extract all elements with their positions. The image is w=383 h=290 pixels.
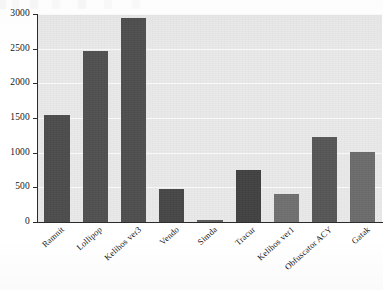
bar	[236, 170, 261, 222]
y-axis-tick-label: 3000	[10, 9, 30, 19]
y-axis-tick-mark	[33, 222, 38, 223]
y-axis-tick-mark	[33, 187, 38, 188]
bars-layer	[38, 14, 382, 222]
x-axis-tick-label: Kelihos ver1	[255, 225, 295, 262]
x-axis-tick-label: Gatak	[350, 225, 372, 246]
bar	[121, 18, 146, 222]
bar	[44, 115, 69, 222]
y-axis-tick-mark	[33, 153, 38, 154]
x-axis-tick-label: Tracur	[234, 225, 257, 247]
bar-chart-figure: 050010001500200025003000 RamnitLollipopK…	[0, 0, 383, 290]
y-axis-tick-label: 2000	[10, 78, 30, 88]
y-axis-tick-label: 2500	[10, 44, 30, 54]
bar	[350, 152, 375, 222]
y-axis-tick-label: 0	[25, 217, 30, 227]
y-axis-tick-mark	[33, 118, 38, 119]
y-axis-tick-label: 1000	[10, 148, 30, 158]
x-axis-line	[34, 222, 383, 223]
bar	[274, 194, 299, 222]
x-axis-tick-label: Vendo	[158, 225, 181, 247]
x-axis-tick-label: Lollipop	[75, 225, 104, 252]
bar	[83, 51, 108, 222]
y-axis-tick-label: 1500	[10, 113, 30, 123]
x-axis-tick-label: Simda	[196, 225, 219, 247]
y-axis-tick-mark	[33, 49, 38, 50]
bar	[312, 137, 337, 222]
y-axis-tick-mark	[33, 83, 38, 84]
plot-area	[38, 14, 382, 222]
y-axis-tick-mark	[33, 14, 38, 15]
x-axis-tick-label: Ramnit	[41, 225, 66, 249]
y-axis-tick-label: 500	[15, 182, 30, 192]
bar	[159, 189, 184, 222]
x-axis-tick-label: Kelihos ver3	[102, 225, 142, 262]
